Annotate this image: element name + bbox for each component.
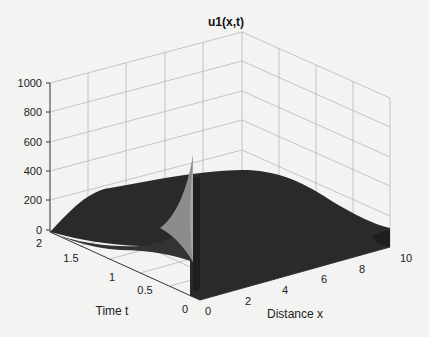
surface-plot: 1000 800 600 400 200 0 2 1.5 1 0.5 0 0 2… — [0, 0, 429, 337]
x-tick: 0 — [205, 305, 211, 317]
t-tick: 0.5 — [137, 284, 152, 296]
x-axis-label: Distance x — [267, 307, 323, 321]
x-tick: 6 — [321, 273, 327, 285]
t-tick: 2 — [36, 237, 42, 249]
x-tick: 4 — [282, 284, 288, 296]
x-tick: 10 — [400, 252, 412, 264]
surface-edge — [193, 176, 200, 292]
t-tick: 1 — [109, 271, 115, 283]
z-tick: 800 — [24, 106, 42, 118]
z-tick: 1000 — [18, 77, 42, 89]
t-tick: 0 — [182, 303, 188, 315]
z-tick: 200 — [24, 194, 42, 206]
x-tick: 2 — [245, 295, 251, 307]
z-tick: 400 — [24, 165, 42, 177]
z-tick: 600 — [24, 136, 42, 148]
plot-title: u1(x,t) — [208, 15, 244, 29]
t-tick: 1.5 — [63, 252, 78, 264]
t-axis-label: Time t — [96, 304, 130, 318]
x-tick: 8 — [359, 263, 365, 275]
z-tick: 0 — [36, 224, 42, 236]
